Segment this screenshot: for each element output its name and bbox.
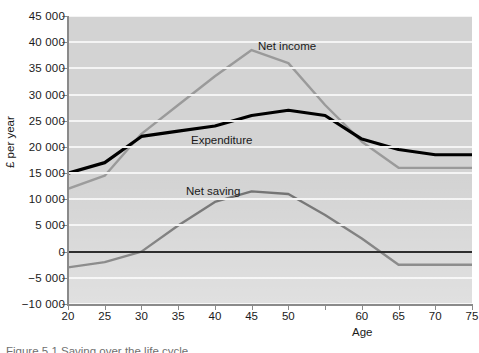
series-line-net-saving — [68, 191, 472, 267]
x-axis-tick — [325, 305, 326, 310]
y-axis-tick-label: 30 000 — [9, 89, 65, 101]
x-axis-tick-label: 60 — [355, 310, 368, 322]
series-lines — [68, 16, 472, 304]
y-axis-title: £ per year — [4, 116, 16, 168]
figure-caption: Figure 5.1 Saving over the life cycle — [6, 345, 188, 353]
x-axis-tick-label: 20 — [62, 310, 75, 322]
x-axis-tick-label: 35 — [172, 310, 185, 322]
y-axis-tick-label: 10 000 — [9, 193, 65, 205]
series-label-expenditure: Expenditure — [191, 134, 252, 146]
y-axis-tick-label: −5 000 — [9, 272, 65, 284]
y-axis-tick-label: 15 000 — [9, 167, 65, 179]
figure-lifecycle-saving: 45 00040 00035 00030 00025 00020 00015 0… — [0, 0, 479, 353]
zero-line — [68, 251, 472, 253]
series-label-net-income: Net income — [258, 40, 316, 52]
plot-area — [68, 16, 472, 304]
y-axis-tick-label: 25 000 — [9, 115, 65, 127]
x-axis-tick-label: 65 — [392, 310, 405, 322]
y-axis-tick-label: 45 000 — [9, 10, 65, 22]
gridline — [68, 146, 472, 148]
gridline — [68, 277, 472, 279]
y-axis-tick-label: 0 — [9, 246, 65, 258]
x-axis-tick-label: 25 — [98, 310, 111, 322]
x-axis-title: Age — [352, 326, 372, 338]
y-axis-tick-label: −10 000 — [9, 298, 65, 310]
y-axis-tick-label: 5 000 — [9, 219, 65, 231]
x-axis-tick-label: 70 — [429, 310, 442, 322]
gridline — [68, 16, 472, 17]
series-label-net-saving: Net saving — [186, 185, 240, 197]
x-axis-tick-label: 30 — [135, 310, 148, 322]
gridline — [68, 224, 472, 226]
x-axis-line — [67, 304, 473, 306]
gridline — [68, 198, 472, 200]
x-axis-tick-label: 45 — [245, 310, 258, 322]
y-axis-tick-label: 40 000 — [9, 36, 65, 48]
y-axis-tick-label: 35 000 — [9, 62, 65, 74]
x-axis-tick-label: 40 — [209, 310, 222, 322]
y-axis-line — [67, 16, 69, 305]
x-axis-tick-label: 75 — [466, 310, 479, 322]
gridline — [68, 67, 472, 69]
y-axis-tick-label: 20 000 — [9, 141, 65, 153]
x-axis-tick-label: 50 — [282, 310, 295, 322]
gridline — [68, 120, 472, 122]
gridline — [68, 94, 472, 96]
gridline — [68, 172, 472, 174]
